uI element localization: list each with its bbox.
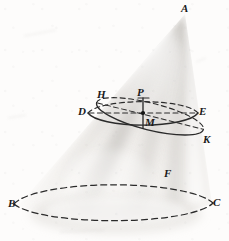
label-tilted-right-K: K — [203, 134, 210, 145]
center-point-dot — [141, 111, 145, 115]
label-center-point-M: M — [145, 117, 155, 128]
label-base-left-B: B — [8, 198, 15, 209]
label-tilted-left-H: H — [97, 89, 106, 100]
label-circle-left-D: D — [78, 106, 86, 117]
cone-base-spill — [30, 194, 202, 234]
cone-diagram — [0, 0, 229, 241]
label-base-front-F: F — [164, 168, 171, 179]
figure-canvas: A B C F D E H K P M — [0, 0, 229, 241]
label-base-right-C: C — [213, 197, 220, 208]
label-circle-right-E: E — [199, 106, 206, 117]
label-apex-A: A — [181, 3, 188, 14]
cone-shading — [18, 14, 212, 221]
label-top-point-P: P — [137, 87, 144, 98]
